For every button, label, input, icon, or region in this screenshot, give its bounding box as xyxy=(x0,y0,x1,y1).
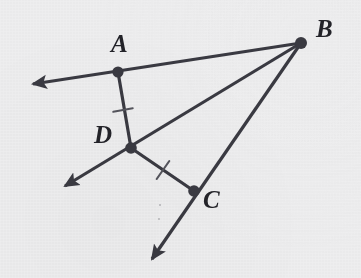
vertex-dot-C xyxy=(188,185,200,197)
paper-speck-artifacts xyxy=(158,204,161,220)
ray-BC xyxy=(152,43,301,259)
vertex-dot-B xyxy=(295,37,307,49)
tick-mark-segment-DC xyxy=(157,161,170,179)
point-label-C: C xyxy=(203,187,220,212)
vertex-dot-D xyxy=(125,142,137,154)
vertex-dot-A xyxy=(112,66,123,77)
geometry-figure: A B C D xyxy=(0,0,361,278)
ray-BA xyxy=(33,43,301,84)
speck-artifact xyxy=(159,204,161,206)
rays-group xyxy=(33,43,301,259)
figure-canvas xyxy=(0,0,361,278)
point-label-A: A xyxy=(111,31,128,56)
clipped-header-text xyxy=(0,0,361,5)
ray-BD xyxy=(65,43,301,186)
point-label-D: D xyxy=(94,122,112,147)
point-label-B: B xyxy=(316,16,333,41)
speck-artifact xyxy=(158,218,160,220)
